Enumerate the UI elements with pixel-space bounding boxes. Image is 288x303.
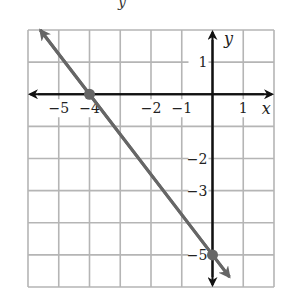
x-tick-label: −5 xyxy=(48,100,69,116)
data-point xyxy=(84,89,95,100)
x-tick-label: −2 xyxy=(141,100,162,116)
tick-labels: −5−4−2−111−2−3−5xy xyxy=(47,29,271,263)
y-tick-label: −3 xyxy=(187,183,208,199)
y-tick-label: −2 xyxy=(187,151,208,167)
x-tick-label: −1 xyxy=(171,100,192,116)
x-axis-label: x xyxy=(262,99,271,118)
coordinate-graph: −5−4−2−111−2−3−5xy xyxy=(0,0,288,303)
y-axis-label: y xyxy=(223,29,234,48)
grid-lines xyxy=(28,30,274,287)
y-tick-label: 1 xyxy=(199,54,208,70)
data-point xyxy=(207,249,218,260)
y-tick-label: −5 xyxy=(187,247,208,263)
x-tick-label: 1 xyxy=(239,100,248,116)
